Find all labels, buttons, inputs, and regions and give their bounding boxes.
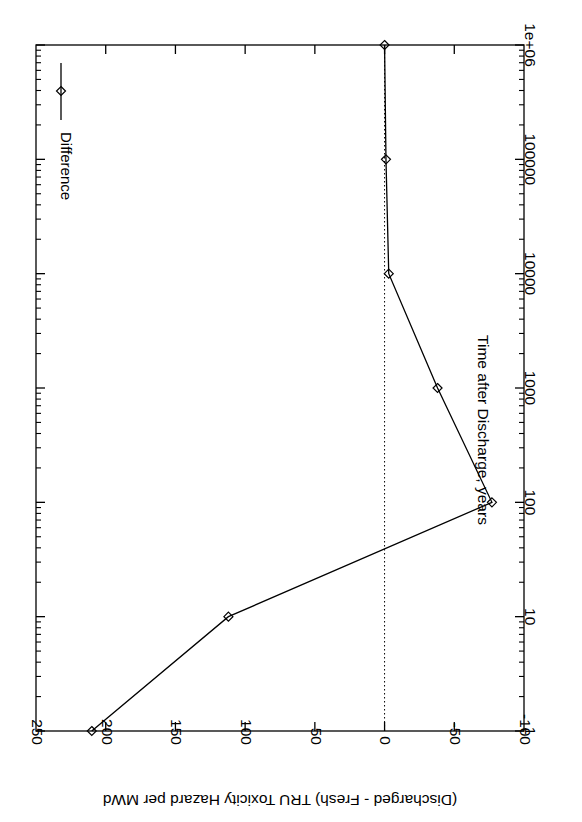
value-tick-label: 0 (377, 736, 394, 745)
value-tick-label: -50 (447, 723, 464, 746)
y-axis-title: (Discharged - Fresh) TRU Toxicity Hazard… (103, 792, 457, 809)
time-tick-label: 100000 (522, 133, 539, 185)
x-axis-title: Time after Discharge, years (475, 335, 492, 525)
time-tick-label: 100 (522, 489, 539, 515)
time-tick-label: 10 (522, 608, 539, 626)
value-tick-label: 50 (308, 728, 325, 746)
value-tick-label: 200 (99, 719, 116, 745)
value-tick-label: 150 (168, 719, 185, 745)
time-tick-label: 10000 (522, 252, 539, 295)
time-tick-label: 1e+06 (522, 23, 539, 67)
chart-background (0, 0, 582, 822)
value-tick-label: 250 (29, 719, 46, 745)
legend-label-difference: Difference (58, 132, 75, 200)
gnuplot-line-chart: 1101001000100001000001e+06 2502001501005… (0, 0, 582, 822)
value-tick-label: 100 (238, 719, 255, 745)
value-tick-label: -100 (517, 714, 534, 745)
chart-figure: 1101001000100001000001e+06 2502001501005… (0, 0, 582, 822)
time-tick-label: 1000 (522, 371, 539, 406)
